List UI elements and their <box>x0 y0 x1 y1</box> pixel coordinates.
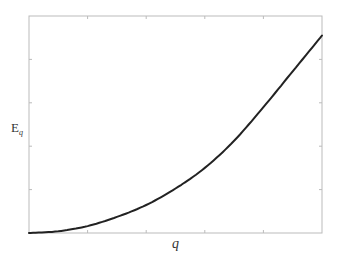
y-axis-label: Eq <box>11 120 23 137</box>
plot-frame <box>29 16 322 233</box>
y-axis-label-subscript: q <box>19 128 23 137</box>
x-axis-label: q <box>172 236 179 252</box>
y-axis-label-main: E <box>11 120 19 135</box>
line-chart <box>0 0 337 259</box>
tick-marks <box>29 16 322 233</box>
data-curve <box>29 36 322 234</box>
